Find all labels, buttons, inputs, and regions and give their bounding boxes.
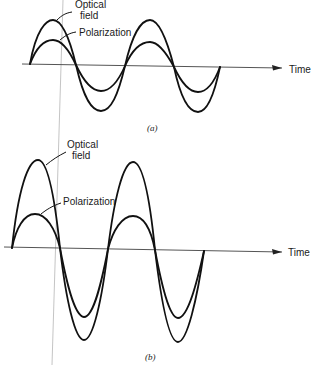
axis-label-time-a: Time: [289, 64, 311, 75]
axis-label-time-b: Time: [288, 247, 310, 258]
axis-arrowhead-icon: [272, 65, 282, 71]
arrow-optical-b: [46, 152, 66, 165]
arrow-polarization-b: [41, 203, 61, 214]
panel-a: Time Optical field Polarization (a): [22, 0, 311, 133]
label-optical-a: Optical: [75, 0, 106, 10]
caption-a: (a): [147, 123, 158, 133]
axis-arrowhead-icon: [272, 249, 282, 255]
label-polarization-a: Polarization: [79, 27, 131, 38]
label-optical-b: Optical: [67, 139, 98, 150]
time-axis-b: [4, 247, 282, 252]
label-field-a: field: [80, 10, 98, 21]
arrow-optical-a: [57, 12, 72, 20]
label-field-b: field: [72, 150, 90, 161]
panel-b: Time Optical field Polarization (b): [4, 139, 310, 362]
guide-line: [52, 0, 63, 365]
figure: Time Optical field Polarization (a) Time…: [0, 0, 312, 365]
label-polarization-b: Polarization: [63, 196, 115, 207]
curve-polarization-b: [12, 214, 204, 318]
caption-b: (b): [145, 352, 156, 362]
curve-polarization-a: [30, 40, 220, 92]
